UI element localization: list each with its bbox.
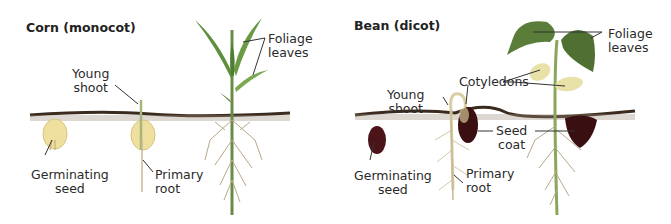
corn-label-foliage-leaves: Foliage leaves	[268, 32, 313, 60]
bean-germinating-seed	[368, 126, 386, 154]
bean-leaf-right	[561, 30, 595, 72]
bean-label-foliage-leaves: Foliage leaves	[608, 27, 653, 55]
corn-label-primary-root: Primary root	[155, 168, 203, 196]
corn-panel: Corn (monocot)	[0, 0, 335, 224]
corn-leaf-right	[234, 18, 262, 76]
corn-leaf-lower	[235, 70, 268, 92]
bean-seed-coat-2	[565, 115, 597, 148]
bean-label-seed-coat: Seed coat	[496, 124, 527, 152]
corn-seed-with-shoot	[131, 120, 155, 150]
corn-leaf-small	[220, 93, 231, 103]
bean-stem	[555, 40, 557, 215]
bean-cotyledon-upper	[526, 60, 553, 85]
bean-label-germinating-seed: Germinating seed	[354, 169, 432, 197]
bean-label-cotyledons: Cotyledons	[459, 75, 529, 89]
bean-label-young-shoot: Young shoot	[387, 88, 424, 116]
corn-label-germinating-seed: Germinating seed	[31, 168, 109, 196]
bean-cotyledon-lower	[554, 75, 584, 94]
bean-panel: Bean (dicot)	[335, 0, 671, 224]
corn-leaf-left	[195, 20, 233, 80]
corn-label-young-shoot: Young shoot	[72, 67, 109, 95]
bean-leaf-left	[507, 21, 555, 55]
bean-label-primary-root: Primary root	[466, 167, 514, 195]
